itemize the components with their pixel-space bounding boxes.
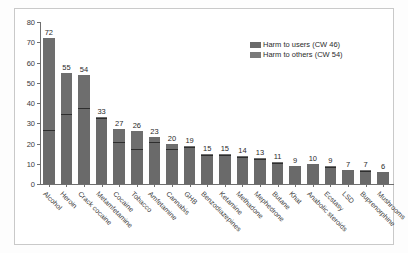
x-axis-tick-mark [102,184,103,187]
bar-value-label: 72 [45,28,53,37]
bar-heroin [61,73,73,184]
x-axis-tick-mark [330,184,331,187]
bar-tobacco [131,131,143,184]
bar-segment-harm-to-users [377,172,389,184]
bar-ketamine [219,154,231,184]
bar-segment-harm-to-users [61,114,73,184]
bar-ghb [184,146,196,184]
legend-swatch-icon-users [250,42,261,48]
bar-khat [289,166,301,184]
bar-segment-harm-to-others [61,73,73,116]
y-axis-tick-mark [37,123,40,124]
y-axis-tick-label: 50 [0,78,35,87]
x-axis-tick-mark [225,184,226,187]
chart-figure: Overall harm score 01020304050607080 725… [0,0,408,253]
x-axis-tick-mark [84,184,85,187]
y-axis-tick-mark [37,42,40,43]
x-axis-tick-mark [49,184,50,187]
bar-value-label: 23 [150,127,158,136]
bar-value-label: 7 [364,160,368,169]
bar-segment-harm-to-users [272,163,284,184]
bar-value-label: 19 [185,136,193,145]
bar-crack-cocaine [78,75,90,184]
legend-label-users: Harm to users (CW 46) [263,40,340,49]
bar-value-label: 11 [274,152,282,161]
x-axis-tick-mark [137,184,138,187]
bar-segment-harm-to-others [113,129,125,143]
x-axis-tick-mark [242,184,243,187]
y-axis-tick-label: 0 [0,180,35,189]
bar-anabolic-steroids [307,164,319,184]
x-axis-tick-mark [366,184,367,187]
bar-buprenorphine [360,170,372,184]
bar-segment-harm-to-users [237,157,249,184]
x-axis-tick-mark [348,184,349,187]
bar-value-label: 10 [309,154,317,163]
bar-value-label: 54 [80,65,88,74]
bar-metamfetamine [96,117,108,184]
bar-lsd [342,170,354,184]
y-axis-tick-mark [37,144,40,145]
y-axis-tick-mark [37,22,40,23]
y-axis-tick-label: 20 [0,139,35,148]
bar-value-label: 9 [328,156,332,165]
bar-segment-harm-to-users [166,149,178,184]
bar-segment-harm-to-users [131,149,143,184]
bar-value-label: 55 [62,63,70,72]
bar-segment-harm-to-users [149,142,161,184]
bar-benzodiazepines [201,154,213,184]
x-axis-tick-mark [278,184,279,187]
legend-item-users: Harm to users (CW 46) [250,40,343,49]
bar-mushrooms [377,172,389,184]
bar-segment-harm-to-users [254,159,266,184]
x-axis-tick-mark [172,184,173,187]
bar-mephedrone [254,158,266,184]
bar-value-label: 14 [238,146,246,155]
y-axis-tick-mark [37,63,40,64]
bar-segment-harm-to-others [78,75,90,109]
y-axis-tick-label: 70 [0,38,35,47]
bar-cannabis [166,144,178,185]
y-axis-tick-mark [37,164,40,165]
x-axis-tick-mark [207,184,208,187]
bar-segment-harm-to-users [201,155,213,184]
bar-segment-harm-to-others [131,131,143,149]
bar-value-label: 9 [293,156,297,165]
bar-cocaine [113,129,125,184]
x-axis-tick-mark [313,184,314,187]
x-axis-tick-mark [154,184,155,187]
bar-segment-harm-to-users [360,171,372,184]
y-axis-tick-label: 60 [0,58,35,67]
y-axis-tick-mark [37,184,40,185]
y-axis-tick-mark [37,83,40,84]
x-axis-tick-mark [260,184,261,187]
bar-value-label: 33 [97,107,105,116]
bar-segment-harm-to-users [96,118,108,184]
legend-swatch-icon-others [250,52,261,58]
bar-value-label: 20 [168,134,176,143]
bar-segment-harm-to-users [325,167,337,184]
chart-legend: Harm to users (CW 46) Harm to others (CW… [250,40,343,60]
bar-segment-harm-to-users [289,166,301,184]
x-axis-tick-mark [190,184,191,187]
bar-segment-harm-to-users [43,130,55,184]
y-axis-tick-label: 80 [0,18,35,27]
x-axis-tick-mark [383,184,384,187]
y-axis-tick-mark [37,103,40,104]
bar-value-label: 13 [256,148,264,157]
y-axis-tick-label: 10 [0,159,35,168]
bar-value-label: 15 [203,144,211,153]
bar-amfetamine [149,137,161,184]
bar-value-label: 26 [133,121,141,130]
y-axis-tick-label: 40 [0,99,35,108]
bar-value-label: 15 [221,144,229,153]
bar-butane [272,162,284,184]
bar-value-label: 27 [115,119,123,128]
bar-segment-harm-to-others [43,38,55,131]
bar-segment-harm-to-users [342,170,354,184]
bar-value-label: 7 [346,160,350,169]
bar-value-label: 6 [381,162,385,171]
x-axis-tick-mark [295,184,296,187]
x-axis-tick-mark [66,184,67,187]
bar-segment-harm-to-users [78,108,90,184]
